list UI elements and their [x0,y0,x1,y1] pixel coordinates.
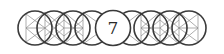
circle-row-figure: 7 [0,0,224,54]
overlapping-circles-diagram: 7 [0,0,224,54]
center-number-label: 7 [108,18,119,38]
